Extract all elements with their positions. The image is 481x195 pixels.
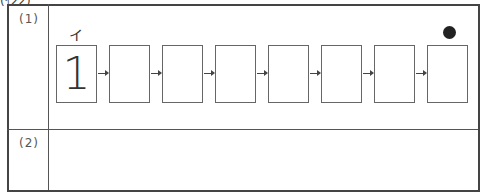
answer-box-5[interactable] <box>268 45 309 103</box>
question-2-label: (2) <box>19 136 39 150</box>
arrow-right-icon <box>257 70 268 76</box>
box-value: 1 <box>57 50 96 98</box>
answer-box-3[interactable] <box>162 45 203 103</box>
arrow-right-icon <box>416 70 427 76</box>
arrow-right-icon <box>98 70 109 76</box>
filled-circle-icon <box>443 26 456 39</box>
answer-box-7[interactable] <box>374 45 415 103</box>
kana-label: イ <box>69 24 83 44</box>
column-divider <box>48 4 49 190</box>
answer-box-4[interactable] <box>215 45 256 103</box>
answer-box-6[interactable] <box>321 45 362 103</box>
answer-box-2[interactable] <box>109 45 150 103</box>
answer-box-1[interactable]: 1 <box>56 45 97 103</box>
arrow-right-icon <box>204 70 215 76</box>
arrow-right-icon <box>151 70 162 76</box>
arrow-right-icon <box>363 70 374 76</box>
arrow-right-icon <box>310 70 321 76</box>
answer-box-8[interactable] <box>427 45 468 103</box>
row-divider <box>7 129 478 130</box>
question-1-label: (1) <box>19 12 39 26</box>
